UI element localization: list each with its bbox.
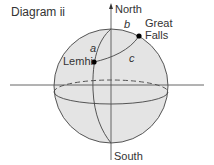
great-falls-label-2: Falls: [145, 29, 168, 41]
south-label: South: [114, 150, 143, 162]
lemhi-label: Lemhi: [63, 55, 93, 67]
north-label: North: [115, 3, 142, 15]
arc-b-label: b: [124, 18, 130, 30]
arc-c-label: c: [129, 52, 135, 64]
north-arrow-icon: [109, 3, 113, 9]
great-falls-point: [136, 33, 141, 38]
globe-diagram: [0, 0, 214, 165]
arc-a-label: a: [90, 42, 96, 54]
diagram-title: Diagram ii: [11, 6, 65, 18]
great-falls-label-1: Great: [145, 17, 173, 29]
